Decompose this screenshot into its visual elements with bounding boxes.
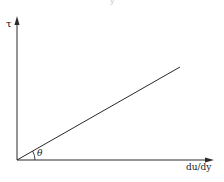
y-axis-arrow-icon xyxy=(15,16,20,25)
y-axis-label: τ xyxy=(6,19,12,29)
angle-label: θ xyxy=(37,149,42,158)
diagram-canvas: y τ du/dy θ xyxy=(0,0,224,182)
relation-line xyxy=(17,67,180,160)
x-axis-label: du/dy xyxy=(186,163,211,172)
angle-arc xyxy=(33,151,35,160)
diagram-svg xyxy=(0,0,224,182)
top-text-fragment: y xyxy=(110,0,115,5)
